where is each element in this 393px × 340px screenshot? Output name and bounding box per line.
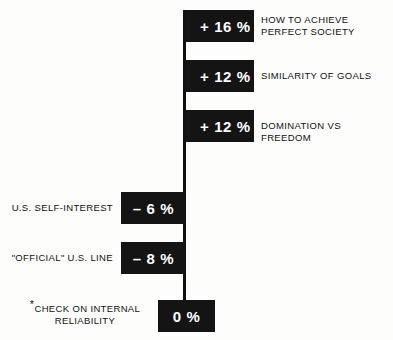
bar-value-label: 0 %	[173, 309, 201, 324]
bar-value-label: – 8 %	[133, 251, 174, 266]
bar-value-label: – 6 %	[133, 201, 174, 216]
bar-chart: + 16 %+ 12 %+ 12 %– 6 %– 8 %0 % HOW TO A…	[0, 0, 393, 340]
category-label: SIMILARITY OF GOALS	[261, 70, 389, 82]
zero-axis-line	[183, 10, 186, 332]
category-label-text: HOW TO ACHIEVE PERFECT SOCIETY	[261, 14, 355, 37]
bar-official-us-line: – 8 %	[121, 242, 186, 274]
bar-similarity-of-goals: + 12 %	[185, 60, 254, 92]
category-label-text: CHECK ON INTERNAL RELIABILITY	[34, 303, 140, 326]
bar-value-label: + 12 %	[185, 69, 251, 84]
category-label-text: U.S. SELF-INTEREST	[12, 202, 113, 213]
category-label: "OFFICIAL" U.S. LINE	[5, 252, 113, 264]
bar-how-to-achieve-perfect-society: + 16 %	[185, 10, 254, 42]
category-label: DOMINATION VS FREEDOM	[261, 120, 393, 143]
category-label: HOW TO ACHIEVE PERFECT SOCIETY	[261, 14, 389, 37]
bar-us-self-interest: – 6 %	[121, 192, 186, 224]
bar-value-label: + 12 %	[185, 119, 251, 134]
bar-value-label: + 16 %	[185, 19, 251, 34]
bar-check-on-internal-reliability: 0 %	[158, 300, 215, 332]
category-label: U.S. SELF-INTEREST	[5, 202, 113, 214]
category-label: *CHECK ON INTERNAL RELIABILITY	[20, 303, 150, 326]
category-label-text: DOMINATION VS FREEDOM	[261, 120, 341, 143]
category-label-text: SIMILARITY OF GOALS	[261, 70, 371, 81]
bar-domination-vs-freedom: + 12 %	[185, 110, 254, 142]
category-label-text: "OFFICIAL" U.S. LINE	[12, 252, 113, 263]
